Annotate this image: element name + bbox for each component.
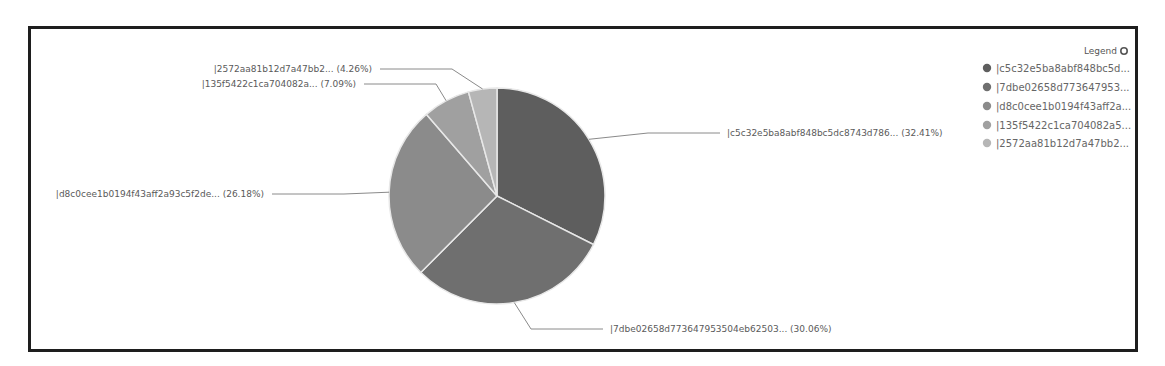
legend-item[interactable]: |2572aa81b12d7a47bb2... [983, 138, 1129, 150]
legend-label: |d8c0cee1b0194f43aff2a... [996, 101, 1131, 113]
legend-label: |7dbe02658d773647953... [996, 82, 1130, 94]
legend: Legend |c5c32e5ba8abf848bc5d...|7dbe0265… [983, 46, 1131, 150]
leader-line [364, 84, 446, 101]
legend-marker-icon [983, 102, 991, 110]
legend-item[interactable]: |7dbe02658d773647953... [983, 82, 1130, 94]
legend-marker-icon [983, 64, 991, 72]
legend-item[interactable]: |d8c0cee1b0194f43aff2a... [983, 101, 1131, 113]
leader-line [514, 303, 603, 329]
leader-line [589, 133, 720, 139]
pie-chart: |c5c32e5ba8abf848bc5dc8743d786... (32.41… [0, 0, 1165, 366]
legend-item[interactable]: |c5c32e5ba8abf848bc5d... [983, 63, 1130, 75]
slice-label: |d8c0cee1b0194f43aff2a93c5f2de... (26.18… [56, 189, 264, 199]
legend-item[interactable]: |135f5422c1ca704082a5... [983, 120, 1131, 132]
slice-label: |7dbe02658d773647953504eb62503... (30.06… [610, 324, 831, 334]
legend-label: |135f5422c1ca704082a5... [996, 120, 1131, 132]
slice-label: |2572aa81b12d7a47bb2... (4.26%) [214, 64, 372, 74]
legend-title: Legend [1084, 46, 1117, 56]
settings-circle-icon[interactable] [1121, 48, 1127, 54]
pie-slices [389, 88, 605, 304]
slice-label: |135f5422c1ca704082a... (7.09%) [202, 79, 356, 89]
legend-marker-icon [983, 121, 991, 129]
legend-label: |c5c32e5ba8abf848bc5d... [996, 63, 1130, 75]
slice-label: |c5c32e5ba8abf848bc5dc8743d786... (32.41… [727, 128, 943, 138]
leader-line [272, 192, 389, 194]
leader-line [380, 69, 483, 89]
legend-label: |2572aa81b12d7a47bb2... [996, 138, 1129, 150]
legend-marker-icon [983, 139, 991, 147]
legend-marker-icon [983, 83, 991, 91]
